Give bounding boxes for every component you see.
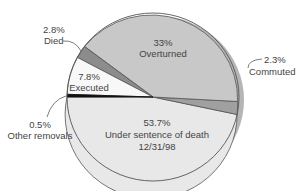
label-commuted-name: Commuted [249,66,295,77]
label-overturned-pct: 33% [153,37,173,48]
label-commuted-pct: 2.3% [264,54,286,65]
label-other-name: Other removals [8,130,73,141]
leader-other [47,96,66,117]
leader-died [63,41,81,51]
pie-chart: 2.8% Died 33% Overturned 2.3% Commuted 7… [0,0,300,191]
label-executed-name: Executed [69,82,109,93]
label-under-sentence-pct: 53.7% [144,117,171,128]
label-under-sentence-line2: 12/31/98 [139,141,176,152]
label-died-pct: 2.8% [43,24,65,35]
label-other-pct: 0.5% [29,119,51,130]
label-under-sentence-line1: Under sentence of death [105,129,209,140]
label-overturned-name: Overturned [139,48,187,59]
label-died-name: Died [44,35,64,46]
label-executed-pct: 7.8% [78,71,100,82]
